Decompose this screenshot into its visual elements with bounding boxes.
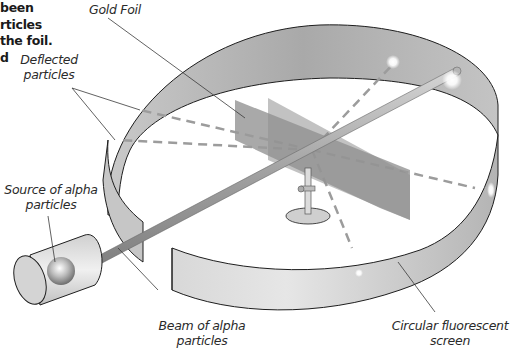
label-text: Beam of alpha: [150, 318, 254, 333]
label-text: particles: [150, 333, 254, 348]
label-text: particles: [0, 197, 106, 212]
label-text: particles: [14, 67, 84, 82]
label-text: Circular fluorescent: [385, 318, 514, 333]
alpha-source: [8, 235, 102, 309]
label-gold-foil: Gold Foil: [80, 2, 150, 17]
label-text: screen: [385, 333, 514, 348]
label-source-of-alpha-particles: Source of alpha particles: [0, 182, 106, 212]
label-circular-fluorescent-screen: Circular fluorescent screen: [385, 318, 514, 348]
label-text: Deflected: [14, 52, 84, 67]
label-deflected-particles: Deflected particles: [14, 52, 84, 82]
caption-line: rticles: [0, 17, 52, 34]
label-beam-of-alpha-particles: Beam of alpha particles: [150, 318, 254, 348]
label-text: Source of alpha: [0, 182, 106, 197]
caption-line: been: [0, 0, 52, 17]
caption-line: the foil.: [0, 33, 52, 50]
label-text: Gold Foil: [89, 2, 141, 17]
